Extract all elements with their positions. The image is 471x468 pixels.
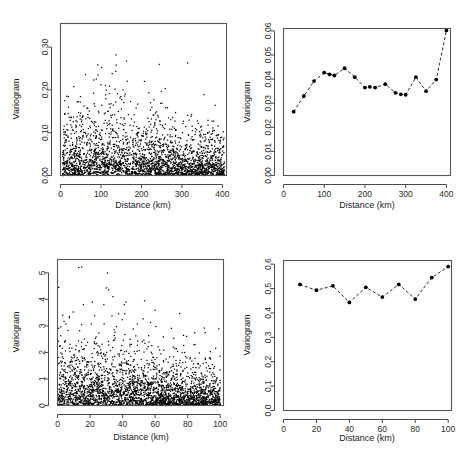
data-point [424, 89, 428, 93]
data-point [322, 71, 326, 75]
data-point [413, 297, 417, 301]
x-axis-title: Distance (km) [339, 200, 395, 210]
data-point [312, 79, 316, 83]
x-tick-label: 100 [94, 189, 108, 199]
data-point [373, 86, 377, 90]
data-point [331, 284, 335, 288]
x-tick-label: 80 [183, 419, 193, 429]
x-axis-title: Distance (km) [113, 432, 169, 442]
x-tick-label: 60 [150, 419, 160, 429]
y-tick-label: 0.0 [263, 404, 273, 416]
data-point [383, 82, 387, 86]
y-tick-label: 0.03 [263, 95, 273, 112]
data-point [347, 301, 351, 305]
x-tick-label: 20 [312, 424, 322, 434]
data-point [292, 110, 296, 114]
x-tick-label: 20 [85, 419, 95, 429]
data-point [368, 85, 372, 89]
y-tick-label: 0.30 [40, 39, 50, 56]
data-point [397, 283, 401, 287]
y-tick-label: 0 [37, 403, 47, 408]
y-tick-label: 0.3 [263, 331, 273, 343]
x-tick-label: 400 [215, 189, 229, 199]
panel-bottom-left: 020406080100012345 Distance (km) Variogr… [0, 234, 235, 468]
y-axis-title: Variogram [11, 79, 21, 120]
x-tick-label: 100 [441, 424, 455, 434]
data-point [414, 75, 418, 79]
x-axis-title: Distance (km) [115, 200, 171, 210]
y-tick-label: 0.02 [263, 119, 273, 136]
y-tick-label: 0.6 [263, 258, 273, 270]
line-series-bottom-right [298, 265, 450, 305]
x-tick-label: 0 [55, 419, 60, 429]
x-tick-label: 100 [213, 419, 227, 429]
y-tick-label: 0.1 [263, 380, 273, 392]
y-tick-label: 5 [37, 270, 47, 275]
scatter-cloud-bottom-left [58, 266, 221, 406]
variogram-figure: 01002003004000.000.100.200.30 Distance (… [0, 0, 471, 468]
x-tick-label: 0 [281, 424, 286, 434]
x-tick-label: 0 [58, 189, 63, 199]
data-point [302, 94, 306, 98]
data-point [446, 265, 450, 269]
data-point [430, 276, 434, 280]
data-point [394, 91, 398, 95]
panel-bottom-right-svg: 0204060801000.00.10.20.30.40.50.6 Distan… [236, 234, 471, 468]
panel-top-right: 01002003004000.000.010.020.030.040.050.0… [236, 0, 471, 234]
y-axis-title: Variogram [242, 82, 252, 123]
y-tick-label: 0.10 [40, 124, 50, 141]
y-tick-label: 0.2 [263, 356, 273, 368]
x-tick-label: 40 [118, 419, 128, 429]
data-point [328, 72, 332, 76]
series-line [300, 267, 448, 303]
x-tick-label: 200 [358, 189, 372, 199]
x-axis-title: Distance (km) [339, 433, 395, 443]
data-point [399, 92, 403, 96]
plot-frame [284, 29, 451, 176]
panel-top-left-svg: 01002003004000.000.100.200.30 Distance (… [0, 0, 235, 234]
y-tick-label: 1 [37, 376, 47, 381]
line-series-top-right [292, 29, 449, 114]
x-tick-label: 400 [439, 189, 453, 199]
y-tick-label: 0.20 [40, 81, 50, 98]
y-tick-label: 0.00 [40, 167, 50, 184]
x-tick-label: 300 [175, 189, 189, 199]
data-point [380, 295, 384, 299]
panel-top-left: 01002003004000.000.100.200.30 Distance (… [0, 0, 235, 234]
axes-top-right: 01002003004000.000.010.020.030.040.050.0… [263, 22, 454, 199]
data-point [364, 285, 368, 289]
y-tick-label: 3 [37, 323, 47, 328]
y-tick-label: 0.00 [263, 167, 273, 184]
y-axis-title: Variogram [242, 315, 252, 356]
axes-bottom-right: 0204060801000.00.10.20.30.40.50.6 [263, 258, 456, 434]
y-tick-label: 4 [37, 297, 47, 302]
y-tick-label: 0.4 [263, 307, 273, 319]
y-tick-label: 2 [37, 350, 47, 355]
x-tick-label: 80 [411, 424, 421, 434]
y-tick-label: 0.01 [263, 143, 273, 160]
data-point [315, 288, 319, 292]
plot-frame [284, 261, 452, 411]
y-tick-label: 0.06 [263, 22, 273, 39]
y-axis-title: Variogram [11, 312, 21, 353]
panel-bottom-left-svg: 020406080100012345 Distance (km) Variogr… [0, 234, 235, 468]
series-line [294, 30, 447, 111]
data-point [434, 78, 438, 82]
data-point [445, 29, 449, 33]
panel-bottom-right: 0204060801000.00.10.20.30.40.50.6 Distan… [236, 234, 471, 468]
data-point [404, 93, 408, 97]
y-tick-label: 0.04 [263, 71, 273, 88]
x-tick-label: 100 [317, 189, 331, 199]
data-point [363, 86, 367, 90]
scatter-cloud-top-left [62, 54, 225, 176]
x-tick-label: 300 [399, 189, 413, 199]
data-point [343, 66, 347, 70]
x-tick-label: 0 [281, 189, 286, 199]
panel-top-right-svg: 01002003004000.000.010.020.030.040.050.0… [236, 0, 471, 234]
y-tick-label: 0.5 [263, 282, 273, 294]
data-point [298, 283, 302, 287]
data-point [353, 75, 357, 79]
x-tick-label: 200 [134, 189, 148, 199]
data-point [333, 74, 337, 78]
y-tick-label: 0.05 [263, 46, 273, 63]
